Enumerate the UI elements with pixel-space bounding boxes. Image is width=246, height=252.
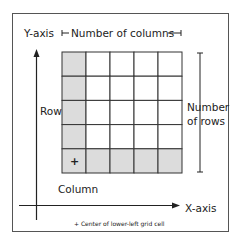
grid-cell <box>110 125 134 149</box>
grid-cell <box>86 125 110 149</box>
num-columns-label: Number of columns <box>71 27 174 39</box>
grid-cell <box>62 76 86 100</box>
num-rows-label-line2: of rows <box>187 115 225 127</box>
y-axis-arrow <box>34 49 40 220</box>
num-rows-label-line1: Number <box>187 101 230 113</box>
y-axis-label: Y-axis <box>23 27 54 39</box>
grid-cell <box>62 52 86 76</box>
grid-cell <box>110 100 134 124</box>
footnote: + Center of lower-left grid cell <box>74 220 165 228</box>
grid-cell <box>134 76 158 100</box>
grid-diagram: Y-axis Number of columns Row Column X-ax… <box>0 0 246 252</box>
grid-cell <box>158 52 182 76</box>
grid-cell <box>134 125 158 149</box>
arrow-right-icon <box>172 203 180 209</box>
grid-cell <box>86 52 110 76</box>
grid-cell <box>62 100 86 124</box>
grid-cell <box>86 149 110 173</box>
grid-cell <box>62 125 86 149</box>
grid-cell <box>134 149 158 173</box>
grid-cell <box>158 149 182 173</box>
grid-cell <box>134 52 158 76</box>
center-marker: + <box>70 155 79 168</box>
grid-cell <box>110 52 134 76</box>
x-axis-label: X-axis <box>185 202 217 214</box>
arrow-up-icon <box>34 49 40 57</box>
grid-cell <box>158 100 182 124</box>
grid-cell <box>86 100 110 124</box>
raster-grid <box>62 52 182 173</box>
row-label: Row <box>40 105 62 117</box>
grid-cell <box>158 125 182 149</box>
grid-cell <box>110 149 134 173</box>
grid-cell <box>158 76 182 100</box>
x-axis-arrow <box>19 203 180 209</box>
grid-cell <box>86 76 110 100</box>
grid-cell <box>110 76 134 100</box>
grid-cell <box>134 100 158 124</box>
column-label: Column <box>58 183 98 195</box>
